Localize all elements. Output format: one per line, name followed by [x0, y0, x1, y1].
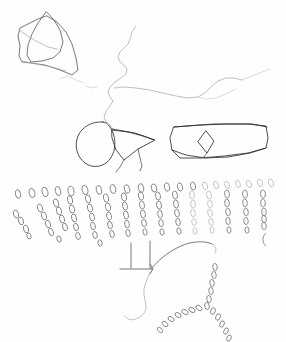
sketch-svg	[0, 0, 286, 342]
sketch-canvas: Hand-drawn pencil sketch Scanned freehan…	[0, 0, 286, 342]
paper-background	[0, 0, 286, 342]
